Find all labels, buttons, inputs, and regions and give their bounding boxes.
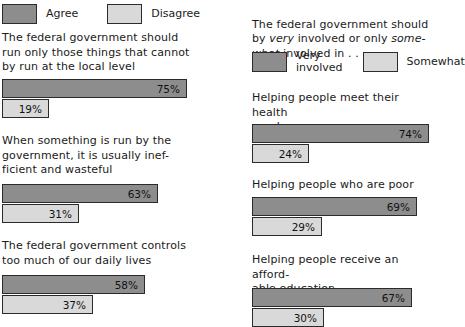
bar-value-somewhat-right-2: 29% bbox=[292, 221, 321, 233]
bargroup-right-1: 74% 24% bbox=[252, 124, 429, 163]
bar-value-very-right-3: 67% bbox=[382, 292, 411, 304]
bar-very-right-1: 74% bbox=[252, 124, 429, 143]
legend-label-very-involved: Very involved bbox=[296, 50, 343, 75]
legend-item-disagree: Disagree bbox=[107, 4, 200, 24]
bar-value-disagree-left-1: 19% bbox=[19, 103, 48, 115]
legend-label-disagree: Disagree bbox=[151, 8, 200, 20]
legend-right: Very involved Somewhat bbox=[252, 50, 465, 75]
bar-value-disagree-left-3: 37% bbox=[63, 299, 92, 311]
bar-value-somewhat-right-3: 30% bbox=[294, 312, 323, 324]
legend-item-somewhat: Somewhat bbox=[363, 52, 465, 72]
legend-swatch-agree-icon bbox=[2, 4, 37, 24]
bar-somewhat-right-1: 24% bbox=[252, 144, 309, 163]
legend-item-agree: Agree bbox=[2, 4, 78, 24]
bar-agree-left-3: 58% bbox=[2, 275, 145, 294]
legend-label-somewhat: Somewhat bbox=[407, 56, 465, 68]
bar-disagree-left-1: 19% bbox=[2, 99, 49, 118]
bargroup-left-2: 63% 31% bbox=[2, 184, 158, 223]
question-text-left-2: When something is run by the government,… bbox=[2, 134, 207, 178]
legend-swatch-somewhat-icon bbox=[363, 52, 398, 72]
panel-agree-disagree: Agree Disagree The federal government sh… bbox=[0, 0, 215, 326]
bargroup-right-2: 69% 29% bbox=[252, 197, 417, 236]
bargroup-right-3: 67% 30% bbox=[252, 288, 412, 327]
bar-disagree-left-3: 37% bbox=[2, 295, 93, 314]
heading-right-part2: involved or only bbox=[294, 32, 391, 45]
bar-value-agree-left-1: 75% bbox=[157, 83, 186, 95]
legend-item-very-involved: Very involved bbox=[252, 50, 343, 75]
bar-somewhat-right-2: 29% bbox=[252, 217, 322, 236]
question-text-left-3: The federal government controls too much… bbox=[2, 239, 207, 268]
legend-label-agree: Agree bbox=[46, 8, 78, 20]
question-text-right-2: Helping people who are poor bbox=[252, 178, 432, 193]
question-text-left-1: The federal government should run only t… bbox=[2, 31, 207, 75]
bar-value-disagree-left-2: 31% bbox=[49, 208, 78, 220]
bar-very-right-3: 67% bbox=[252, 288, 412, 307]
bar-somewhat-right-3: 30% bbox=[252, 308, 324, 327]
panel-very-somewhat: The federal government should by very in… bbox=[215, 0, 429, 326]
bar-agree-left-2: 63% bbox=[2, 184, 158, 203]
legend-swatch-very-involved-icon bbox=[252, 52, 287, 72]
bar-very-right-2: 69% bbox=[252, 197, 417, 216]
bar-agree-left-1: 75% bbox=[2, 79, 187, 98]
legend-swatch-disagree-icon bbox=[107, 4, 142, 24]
bar-value-agree-left-2: 63% bbox=[128, 188, 157, 200]
legend-left: Agree Disagree bbox=[2, 4, 200, 24]
bar-disagree-left-2: 31% bbox=[2, 204, 79, 223]
bargroup-left-3: 58% 37% bbox=[2, 275, 145, 314]
bar-value-very-right-1: 74% bbox=[399, 128, 428, 140]
bar-value-very-right-2: 69% bbox=[387, 201, 416, 213]
bar-value-agree-left-3: 58% bbox=[115, 279, 144, 291]
bar-value-somewhat-right-1: 24% bbox=[279, 148, 308, 160]
heading-right-italic1: very bbox=[269, 32, 294, 45]
bargroup-left-1: 75% 19% bbox=[2, 79, 187, 118]
